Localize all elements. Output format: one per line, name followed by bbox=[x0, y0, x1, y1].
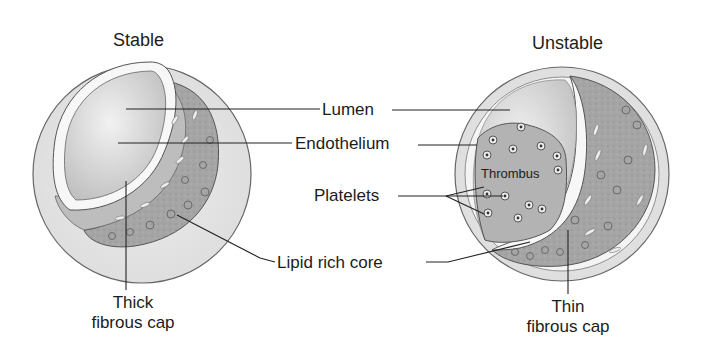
label-platelets: Platelets bbox=[314, 186, 379, 206]
label-lipid-rich-core: Lipid rich core bbox=[277, 253, 383, 273]
label-thick-line1: Thick bbox=[78, 293, 188, 313]
label-endothelium: Endothelium bbox=[295, 134, 390, 154]
label-thick-fibrous-cap: Thick fibrous cap bbox=[78, 293, 188, 333]
label-thin-line2: fibrous cap bbox=[513, 317, 623, 337]
label-thick-line2: fibrous cap bbox=[78, 313, 188, 333]
label-thrombus: Thrombus bbox=[481, 164, 540, 184]
label-thin-fibrous-cap: Thin fibrous cap bbox=[513, 297, 623, 337]
stable-artery bbox=[33, 62, 251, 283]
label-thin-line1: Thin bbox=[513, 297, 623, 317]
stable-title: Stable bbox=[113, 30, 164, 50]
label-lumen: Lumen bbox=[322, 100, 374, 120]
unstable-title: Unstable bbox=[532, 33, 603, 53]
